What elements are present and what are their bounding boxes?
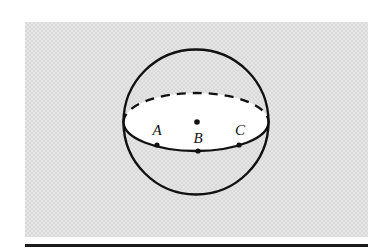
sphere-diagram: A B C bbox=[110, 40, 290, 210]
point-b-label: B bbox=[193, 130, 202, 146]
point-b-marker bbox=[195, 148, 200, 153]
point-a-label: A bbox=[151, 122, 162, 138]
point-a-marker bbox=[154, 142, 159, 147]
sphere-center-dot bbox=[194, 119, 200, 125]
horizontal-rule-bar bbox=[25, 244, 368, 247]
figure-root: A B C bbox=[0, 0, 385, 252]
point-c-label: C bbox=[235, 122, 246, 138]
point-c-marker bbox=[236, 142, 241, 147]
